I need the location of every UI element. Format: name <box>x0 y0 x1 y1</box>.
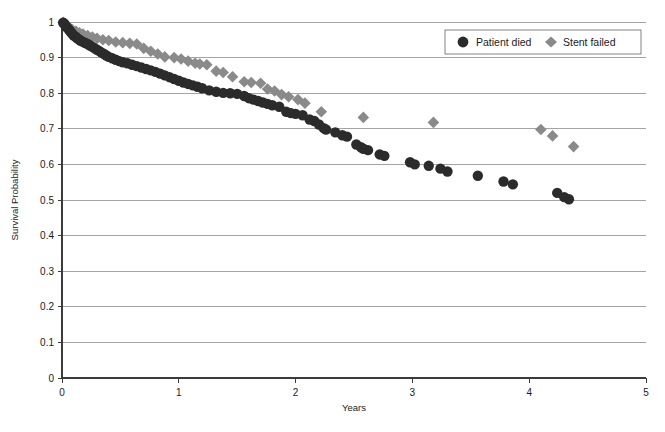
data-point-patient-died <box>498 176 508 186</box>
x-tick-label: 5 <box>643 387 649 398</box>
y-tick-label: 0.3 <box>40 266 54 277</box>
y-tick-label: 0.9 <box>40 52 54 63</box>
legend-label-patient-died: Patient died <box>476 36 532 48</box>
x-tick-label: 2 <box>293 387 299 398</box>
data-point-patient-died <box>473 171 483 181</box>
data-point-patient-died <box>508 179 518 189</box>
data-point-patient-died <box>363 145 373 155</box>
y-axis-title: Survival Probability <box>9 159 20 240</box>
x-tick-label: 3 <box>410 387 416 398</box>
chart-background <box>0 0 665 432</box>
data-point-patient-died <box>321 124 331 134</box>
y-tick-label: 0.1 <box>40 337 54 348</box>
legend-label-stent-failed: Stent failed <box>563 36 616 48</box>
data-point-patient-died <box>424 161 434 171</box>
data-point-patient-died <box>379 151 389 161</box>
data-point-patient-died <box>564 194 574 204</box>
y-tick-label: 1 <box>48 17 54 28</box>
x-tick-label: 4 <box>526 387 532 398</box>
y-tick-label: 0.2 <box>40 301 54 312</box>
y-tick-label: 0.8 <box>40 88 54 99</box>
data-point-patient-died <box>410 159 420 169</box>
x-tick-label: 0 <box>59 387 65 398</box>
y-tick-label: 0.6 <box>40 159 54 170</box>
y-tick-label: 0.4 <box>40 230 54 241</box>
x-axis-title: Years <box>342 402 366 413</box>
survival-probability-chart: 00.10.20.30.40.50.60.70.80.91 012345 Yea… <box>0 0 665 432</box>
data-point-patient-died <box>442 166 452 176</box>
chart-canvas: 00.10.20.30.40.50.60.70.80.91 012345 Yea… <box>0 0 665 432</box>
legend-marker-circle-icon <box>458 37 469 48</box>
chart-legend: Patient died Stent failed <box>445 30 641 54</box>
x-tick-label: 1 <box>176 387 182 398</box>
data-point-patient-died <box>342 131 352 141</box>
y-tick-label: 0.7 <box>40 123 54 134</box>
y-tick-label: 0.5 <box>40 195 54 206</box>
y-tick-label: 0 <box>48 373 54 384</box>
